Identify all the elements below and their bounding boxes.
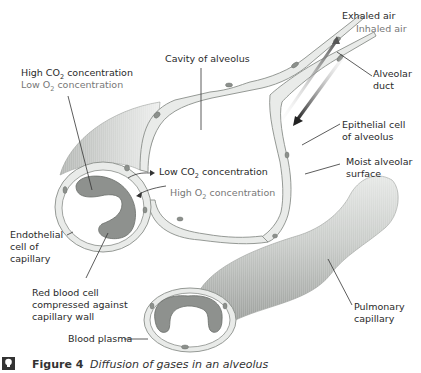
lightbulb-icon [2, 357, 15, 370]
label-low-o2: Low O2 concentration [21, 79, 123, 93]
moist-leader [305, 164, 340, 174]
label-epithelial-1: Epithelial cell [342, 119, 405, 130]
label-rbc-3: capillary wall [32, 311, 94, 322]
capillary-cross-section-left [55, 162, 151, 252]
epithelial-leader [302, 124, 340, 145]
label-endothelial-1: Endothelial [10, 229, 63, 240]
label-pulmonary-1: Pulmonary [354, 301, 405, 312]
label-moist-2: surface [346, 168, 381, 179]
figure-caption: Figure 4 Diffusion of gases in an alveol… [2, 357, 269, 371]
label-epithelial-2: of alveolus [342, 131, 394, 142]
label-blood-plasma: Blood plasma [68, 333, 132, 344]
label-pulmonary-2: capillary [354, 313, 395, 324]
label-alveolar-duct-1: Alveolar [373, 68, 412, 79]
label-rbc-1: Red blood cell [32, 287, 99, 298]
duct-leader [337, 52, 372, 76]
label-alveolar-duct-2: duct [373, 80, 394, 91]
label-low-co2: Low CO2 concentration [159, 166, 268, 180]
label-exhaled-air: Exhaled air [342, 10, 395, 21]
label-moist-1: Moist alveolar [346, 156, 413, 167]
alveolus-wall [119, 15, 376, 246]
figure-number: Figure 4 [32, 358, 84, 371]
label-cavity-of-alveolus: Cavity of alveolus [165, 53, 250, 64]
alveolus-diagram: Exhaled air Inhaled air Cavity of alveol… [0, 0, 421, 373]
label-rbc-2: compressed against [32, 299, 128, 310]
capillary-cross-section-bottom [144, 288, 236, 352]
label-high-o2: High O2 concentration [170, 187, 275, 201]
pulmonary-leader [328, 259, 352, 305]
label-endothelial-3: capillary [10, 253, 51, 264]
label-inhaled-air: Inhaled air [356, 23, 407, 34]
label-endothelial-2: cell of [10, 241, 39, 252]
figure-caption-text: Diffusion of gases in an alveolus [90, 358, 269, 371]
